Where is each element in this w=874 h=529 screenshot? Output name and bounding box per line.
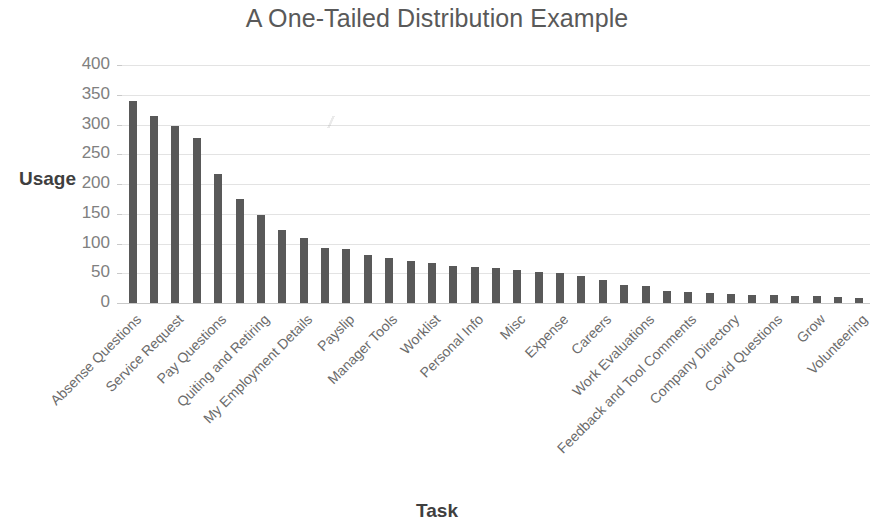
bar	[428, 263, 436, 303]
y-axis-tick	[117, 184, 122, 185]
bar	[449, 266, 457, 303]
y-axis-tick	[117, 65, 122, 66]
bar	[214, 174, 222, 303]
bar	[513, 270, 521, 303]
y-axis-tick	[117, 273, 122, 274]
bar	[855, 298, 863, 303]
bar	[385, 258, 393, 303]
bar	[706, 293, 714, 303]
bar	[150, 116, 158, 303]
bar	[236, 199, 244, 303]
bar	[364, 255, 372, 303]
chart-container: A One-Tailed Distribution Example Usage …	[0, 0, 874, 529]
bar	[342, 249, 350, 303]
y-axis-tick-label: 400	[60, 54, 110, 74]
y-axis-tick	[117, 95, 122, 96]
bar	[300, 238, 308, 303]
bar	[492, 268, 500, 303]
y-axis-tick	[117, 303, 122, 304]
bar	[599, 280, 607, 303]
bar	[321, 248, 329, 303]
y-axis-tick-label: 300	[60, 114, 110, 134]
bar	[556, 273, 564, 303]
bar	[748, 295, 756, 303]
bar	[171, 126, 179, 303]
y-axis-tick-label: 50	[60, 262, 110, 282]
y-axis-tick	[117, 214, 122, 215]
bar	[129, 101, 137, 303]
bar	[642, 286, 650, 303]
bar	[663, 291, 671, 303]
gridline	[122, 125, 870, 126]
y-axis-tick-label: 0	[60, 292, 110, 312]
bar	[727, 294, 735, 303]
gridline	[122, 214, 870, 215]
y-axis-tick-label: 150	[60, 203, 110, 223]
bar	[577, 276, 585, 303]
y-axis-tick	[117, 125, 122, 126]
bar	[834, 297, 842, 303]
stray-artifact-mark	[320, 116, 342, 128]
gridline	[122, 95, 870, 96]
y-axis-tick	[117, 154, 122, 155]
y-axis-tick	[117, 244, 122, 245]
bar	[471, 267, 479, 303]
x-axis-title: Task	[0, 500, 874, 522]
x-axis-line	[122, 303, 870, 304]
gridline	[122, 184, 870, 185]
bar	[535, 272, 543, 303]
bar	[770, 295, 778, 303]
bar	[407, 261, 415, 303]
plot-area	[122, 65, 870, 303]
bar	[791, 296, 799, 303]
y-axis-tick-label: 350	[60, 84, 110, 104]
bar	[193, 138, 201, 303]
bar	[257, 215, 265, 303]
bar	[813, 296, 821, 303]
y-axis-tick-label: 250	[60, 143, 110, 163]
chart-title: A One-Tailed Distribution Example	[0, 4, 874, 33]
gridline	[122, 244, 870, 245]
bar	[278, 230, 286, 303]
y-axis-tick-label: 200	[60, 173, 110, 193]
y-axis-tick-label: 100	[60, 233, 110, 253]
gridline	[122, 65, 870, 66]
bar	[684, 292, 692, 303]
gridline	[122, 154, 870, 155]
bar	[620, 285, 628, 303]
